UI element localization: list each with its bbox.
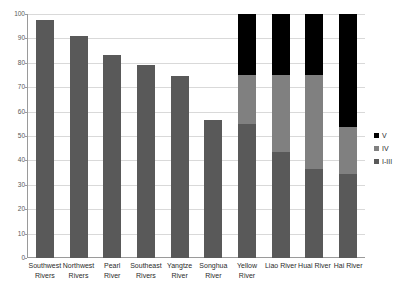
stacked-bar-chart: 0102030405060708090100 SouthwestRiversNo… bbox=[0, 0, 413, 293]
x-axis-label: YellowRiver bbox=[230, 261, 264, 281]
x-axis-label-line: River bbox=[230, 271, 264, 281]
legend-label: V bbox=[382, 132, 387, 139]
bar-segment-i-iii bbox=[171, 76, 189, 258]
x-axis-label: Pearl River bbox=[95, 261, 129, 281]
x-axis-label-line: Rivers bbox=[62, 271, 96, 281]
y-axis-tick-label: 60 bbox=[1, 108, 25, 115]
x-axis-label-line: River bbox=[197, 271, 231, 281]
y-axis-tick-mark bbox=[25, 258, 27, 259]
y-axis-tick-label: 90 bbox=[1, 35, 25, 42]
bar-segment-iv bbox=[272, 75, 290, 152]
bar-stack[interactable] bbox=[36, 20, 54, 258]
bar-slot bbox=[28, 14, 62, 258]
x-axis-label-line: Pearl River bbox=[95, 261, 129, 281]
x-axis-label-line: Huai River bbox=[298, 261, 332, 271]
bar-slot bbox=[331, 14, 365, 258]
bar-slot bbox=[230, 14, 264, 258]
legend-swatch-icon bbox=[374, 146, 379, 151]
bar-segment-i-iii bbox=[339, 174, 357, 258]
x-axis-label: SoutheastRivers bbox=[129, 261, 163, 281]
x-axis-label-line: Rivers bbox=[28, 271, 62, 281]
y-axis-tick-label: 30 bbox=[1, 182, 25, 189]
bar-segment-i-iii bbox=[36, 20, 54, 258]
bar-slot bbox=[163, 14, 197, 258]
x-axis-label: Huai River bbox=[298, 261, 332, 271]
legend-label: I-III bbox=[382, 158, 392, 165]
legend-item-i-iii[interactable]: I-III bbox=[374, 155, 413, 168]
legend-swatch-icon bbox=[374, 133, 379, 138]
y-axis-tick-label: 70 bbox=[1, 84, 25, 91]
y-axis-tick-label: 50 bbox=[1, 133, 25, 140]
bar-segment-i-iii bbox=[103, 55, 121, 258]
x-axis-label: NorthwestRivers bbox=[62, 261, 96, 281]
bar-segment-i-iii bbox=[305, 169, 323, 258]
bar-slot bbox=[95, 14, 129, 258]
bar-stack[interactable] bbox=[171, 76, 189, 258]
bar-segment-i-iii bbox=[70, 36, 88, 258]
x-axis-label-line: Songhua bbox=[197, 261, 231, 271]
x-axis-label-line: Rivers bbox=[129, 271, 163, 281]
y-axis-tick-label: 100 bbox=[1, 11, 25, 18]
chart-legend: VIVI-III bbox=[374, 129, 413, 168]
legend-item-v[interactable]: V bbox=[374, 129, 413, 142]
x-axis-label: Hai River bbox=[331, 261, 365, 271]
x-axis-label-line: River bbox=[163, 271, 197, 281]
x-axis-label-line: Southwest bbox=[28, 261, 62, 271]
x-axis-label-line: Northwest bbox=[62, 261, 96, 271]
legend-swatch-icon bbox=[374, 159, 379, 164]
x-axis-labels: SouthwestRiversNorthwestRiversPearl Rive… bbox=[28, 261, 365, 293]
y-axis-tick-label: 20 bbox=[1, 206, 25, 213]
bars-layer bbox=[28, 14, 365, 258]
bar-segment-i-iii bbox=[272, 152, 290, 258]
x-axis-label-line: Hai River bbox=[331, 261, 365, 271]
y-axis-tick-label: 10 bbox=[1, 230, 25, 237]
bar-segment-i-iii bbox=[137, 65, 155, 258]
bar-segment-i-iii bbox=[238, 124, 256, 258]
x-axis-label-line: Liao River bbox=[264, 261, 298, 271]
bar-segment-i-iii bbox=[204, 120, 222, 258]
y-axis-tick-label: 0 bbox=[1, 255, 25, 262]
x-axis-label: Liao River bbox=[264, 261, 298, 271]
x-axis-label-line: Yangtze bbox=[163, 261, 197, 271]
bar-stack[interactable] bbox=[103, 55, 121, 258]
bar-stack[interactable] bbox=[272, 14, 290, 258]
legend-label: IV bbox=[382, 145, 389, 152]
bar-stack[interactable] bbox=[305, 14, 323, 258]
bar-stack[interactable] bbox=[339, 14, 357, 258]
x-axis-label: SouthwestRivers bbox=[28, 261, 62, 281]
x-axis-label-line: Southeast bbox=[129, 261, 163, 271]
y-axis-tick-label: 40 bbox=[1, 157, 25, 164]
bar-slot bbox=[197, 14, 231, 258]
x-axis-label: SonghuaRiver bbox=[197, 261, 231, 281]
bar-segment-iv bbox=[339, 127, 357, 173]
bar-slot bbox=[62, 14, 96, 258]
bar-slot bbox=[264, 14, 298, 258]
bar-segment-v bbox=[305, 14, 323, 75]
bar-stack[interactable] bbox=[137, 65, 155, 258]
bar-slot bbox=[129, 14, 163, 258]
x-axis-label: YangtzeRiver bbox=[163, 261, 197, 281]
bar-segment-v bbox=[272, 14, 290, 75]
y-axis-tick-label: 80 bbox=[1, 60, 25, 67]
bar-stack[interactable] bbox=[238, 14, 256, 258]
bar-segment-iv bbox=[305, 75, 323, 169]
bar-segment-iv bbox=[238, 75, 256, 124]
bar-stack[interactable] bbox=[70, 36, 88, 258]
y-axis: 0102030405060708090100 bbox=[0, 14, 25, 258]
legend-item-iv[interactable]: IV bbox=[374, 142, 413, 155]
bar-segment-v bbox=[238, 14, 256, 75]
bar-slot bbox=[298, 14, 332, 258]
x-axis-label-line: Yellow bbox=[230, 261, 264, 271]
bar-segment-v bbox=[339, 14, 357, 127]
bar-stack[interactable] bbox=[204, 120, 222, 258]
